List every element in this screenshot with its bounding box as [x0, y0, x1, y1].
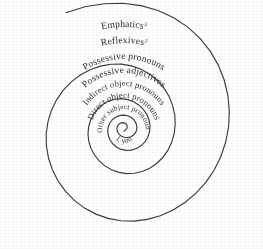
figure-canvas: Emphatics3 Reflexives2 Possessive pronou…: [0, 0, 263, 249]
spiral-label-i-you-text: I, you: [114, 134, 133, 145]
spiral-label-reflexives: Reflexives2: [100, 34, 149, 48]
spiral-diagram: Emphatics3 Reflexives2 Possessive pronou…: [0, 0, 263, 249]
spiral-label-emphatics-text: Emphatics: [100, 18, 145, 31]
spiral-label-reflexives-text: Reflexives: [100, 34, 146, 48]
spiral-label-emphatics: Emphatics3: [100, 18, 148, 31]
spiral-label-i-you: I, you: [114, 134, 133, 145]
